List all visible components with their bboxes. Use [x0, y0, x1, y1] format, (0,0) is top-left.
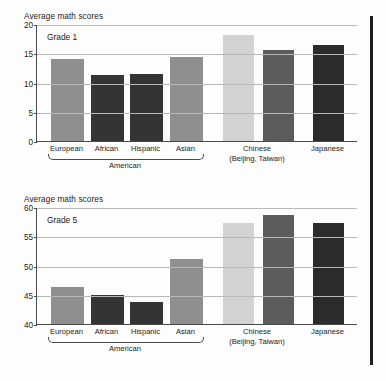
bar: [263, 215, 294, 324]
y-tick-mark: [34, 267, 37, 268]
bar: [170, 259, 203, 324]
y-tick-label: 15: [24, 50, 33, 59]
y-tick-mark: [34, 325, 37, 326]
y-tick-mark: [34, 113, 37, 114]
group-brace-label: American: [65, 161, 185, 170]
bar: [130, 302, 163, 324]
vertical-rule: [370, 16, 373, 365]
gridline: [37, 54, 357, 55]
y-tick-label: 60: [24, 204, 33, 213]
gridline: [37, 237, 357, 238]
gridline: [37, 113, 357, 114]
gridline: [37, 267, 357, 268]
y-tick-mark: [34, 84, 37, 85]
bar: [91, 295, 124, 324]
y-tick-mark: [34, 237, 37, 238]
y-tick-label: 10: [24, 79, 33, 88]
group-brace-label: American: [65, 344, 185, 353]
y-tick-mark: [34, 54, 37, 55]
chart-title-grade1: Average math scores: [24, 12, 103, 21]
group-brace: [48, 337, 204, 343]
gridline: [37, 296, 357, 297]
plot-area-grade1: Grade 1 05101520: [36, 25, 357, 142]
bar: [313, 45, 344, 141]
y-tick-label: 55: [24, 233, 33, 242]
bar: [51, 59, 84, 141]
y-tick-mark: [34, 296, 37, 297]
chart-title-grade5: Average math scores: [24, 195, 103, 204]
x-axis-label: Japanese: [268, 144, 386, 154]
y-tick-mark: [34, 208, 37, 209]
bar: [263, 50, 294, 141]
x-axis-label: (Beijing, Taiwan): [197, 337, 317, 347]
plot-area-grade5: Grade 5 4045505560: [36, 208, 357, 325]
y-tick-label: 5: [28, 108, 33, 117]
bar: [51, 287, 84, 324]
x-axis-label: (Beijing, Taiwan): [197, 154, 317, 164]
y-tick-label: 50: [24, 262, 33, 271]
bar: [91, 75, 124, 141]
y-tick-label: 45: [24, 291, 33, 300]
bar: [223, 35, 254, 141]
x-axis-label: Japanese: [268, 327, 386, 337]
bar: [223, 223, 254, 324]
y-tick-mark: [34, 25, 37, 26]
gridline: [37, 25, 357, 26]
gridline: [37, 208, 357, 209]
bar: [170, 57, 203, 141]
figure-page: Average math scores Grade 1 05101520 Eur…: [0, 0, 386, 381]
gridline: [37, 84, 357, 85]
group-brace: [48, 154, 204, 160]
y-tick-mark: [34, 142, 37, 143]
y-tick-label: 20: [24, 21, 33, 30]
